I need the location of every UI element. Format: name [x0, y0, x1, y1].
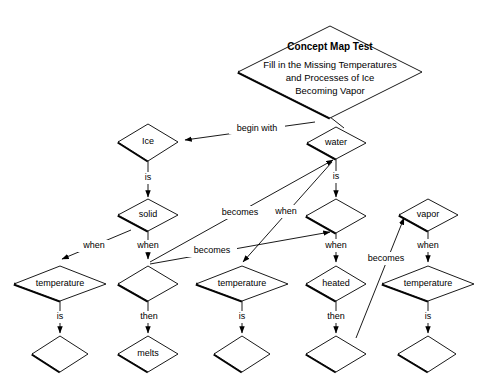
edge-title-to-water [330, 117, 344, 128]
edge-label-becomes-to-water: becomes [222, 207, 259, 217]
edge-label-center-temperature-is: is [239, 311, 246, 321]
edge-label-becomes-to-vapor: becomes [368, 253, 405, 263]
node-ice-label: Ice [142, 136, 154, 146]
node-solid[interactable]: solid [118, 199, 178, 231]
node-temperature-right[interactable]: temperature [382, 266, 474, 301]
node-blank-left-answer[interactable] [32, 336, 88, 372]
edge-label-right-temperature-is: is [425, 311, 432, 321]
title-line2: and Processes of Ice [286, 72, 375, 83]
concept-map-canvas: Concept Map Test Fill in the Missing Tem… [0, 0, 480, 385]
node-blank-heated-answer-outline [306, 336, 366, 372]
node-temperature-center[interactable]: temperature [196, 266, 288, 301]
node-temperature-right-label: temperature [404, 278, 453, 288]
node-temperature-left-label: temperature [36, 278, 85, 288]
node-blank-left-answer-outline [32, 336, 88, 372]
edge-label-heated-then: then [327, 311, 345, 321]
node-melts[interactable]: melts [118, 336, 178, 372]
node-blank-vapor-answer[interactable] [398, 336, 456, 372]
node-water-label: water [324, 137, 347, 147]
edge-layer [60, 117, 428, 338]
node-blank-center-answer[interactable] [214, 336, 270, 372]
title-heading: Concept Map Test [287, 41, 373, 52]
node-vapor-label: vapor [417, 209, 440, 219]
node-blank-water[interactable] [306, 199, 366, 233]
node-heated-label: heated [322, 278, 350, 288]
edge-label-solid-when-left: when [82, 240, 105, 250]
node-blank-vapor-answer-outline [398, 336, 456, 372]
node-temperature-left[interactable]: temperature [14, 266, 106, 301]
edge-label-becomes-to-center-temperature: becomes [194, 245, 231, 255]
edge-blank-solid-to-blank-water [150, 232, 330, 264]
node-water[interactable]: water [307, 127, 366, 159]
node-ice[interactable]: Ice [118, 124, 178, 161]
node-blank-solid[interactable] [118, 266, 178, 301]
node-solid-label: solid [139, 209, 158, 219]
title-line1: Fill in the Missing Temperatures [263, 59, 397, 70]
edge-label-vapor-when: when [416, 240, 439, 250]
node-blank-water-outline [306, 199, 366, 233]
node-blank-center-answer-outline [214, 336, 270, 372]
edge-label-left-temperature-is: is [57, 311, 64, 321]
edge-label-water-blank-when: when [324, 240, 347, 250]
edge-label-begin-with: begin with [237, 123, 278, 133]
edge-label-blank-solid-then: then [140, 311, 158, 321]
edge-label-solid-when-down: when [136, 240, 159, 250]
concept-map-diagram: Concept Map Test Fill in the Missing Tem… [0, 0, 480, 385]
edge-label-when-center-temperature: when [274, 206, 297, 216]
node-melts-label: melts [137, 348, 159, 358]
node-blank-solid-outline [118, 266, 178, 301]
edge-label-ice-is: is [145, 172, 152, 182]
node-title: Concept Map Test Fill in the Missing Tem… [238, 26, 422, 118]
node-blank-heated-answer[interactable] [306, 336, 366, 372]
title-line3: Becoming Vapor [295, 85, 365, 96]
node-heated[interactable]: heated [306, 266, 366, 301]
node-temperature-center-label: temperature [218, 278, 267, 288]
edge-label-water-is: is [333, 171, 340, 181]
node-vapor[interactable]: vapor [399, 199, 458, 231]
